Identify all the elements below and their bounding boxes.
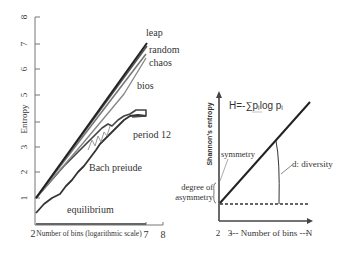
x-tick-7: 7 <box>144 229 149 240</box>
left-chart: 8 7 6 5 3 2 1 Entropy 2 Number of bins (… <box>19 14 180 240</box>
figure: 8 7 6 5 3 2 1 Entropy 2 Number of bins (… <box>0 0 347 255</box>
y-ticks <box>35 17 40 198</box>
label-equilibrium: equilibrium <box>67 204 114 215</box>
diversity-pointer <box>281 165 292 174</box>
symmetry-label: symmetry <box>221 149 256 159</box>
asymmetry-brace <box>214 183 216 203</box>
x-tick-2: 2 <box>31 228 36 239</box>
y-tick-6: 6 <box>19 66 29 71</box>
y-axis-label: Entropy <box>19 104 29 133</box>
x-axis-label: Number of bins (logarithmic scale) <box>36 229 142 238</box>
y-arrow-icon <box>216 91 222 98</box>
symmetry-pointer <box>220 159 228 181</box>
x-tick-8: 8 <box>161 229 166 240</box>
entropy-formula: H=-∑pᵢlog pᵢ <box>229 100 283 111</box>
x-arrow-icon <box>307 218 313 224</box>
right-diagram: Shannon's entropy H=-∑pᵢlog pᵢ d: divers… <box>175 91 333 238</box>
series-lines <box>36 43 147 224</box>
label-chaos: chaos <box>149 57 172 68</box>
label-period-12: period 12 <box>133 129 171 140</box>
y-tick-7: 7 <box>19 41 29 46</box>
diversity-arc <box>276 141 279 204</box>
label-bios: bios <box>137 80 154 91</box>
y-tick-8: 8 <box>19 14 29 19</box>
series-leap <box>36 43 147 198</box>
label-bach-prelude: Bach preiude <box>89 162 143 173</box>
asymmetry-label: asymmetry <box>175 192 214 202</box>
label-leap: leap <box>146 27 163 38</box>
label-random: random <box>149 44 180 55</box>
right-y-label: Shannon's entropy <box>206 102 214 165</box>
degree-of-label: degree of <box>181 182 213 192</box>
y-tick-1: 1 <box>19 196 29 201</box>
y-tick-5: 5 <box>19 92 29 97</box>
diversity-label: d: diversity <box>292 159 333 169</box>
right-x-label: --- Number of bins --- <box>230 228 309 238</box>
right-x-tick-n: N <box>306 228 313 238</box>
right-x-tick-2: 2 <box>216 228 221 238</box>
y-tick-3: 3 <box>19 144 29 149</box>
y-tick-2: 2 <box>19 170 29 175</box>
